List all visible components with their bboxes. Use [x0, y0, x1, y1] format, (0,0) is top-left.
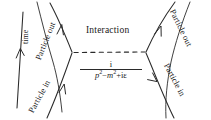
- interaction-label: Interaction: [86, 26, 129, 36]
- time-axis-line: [17, 12, 23, 108]
- dashed-propagator-line: [74, 52, 145, 53]
- feynman-diagram-canvas: time Particle out Particle in Particle o…: [0, 0, 211, 120]
- time-axis-label: time: [22, 30, 30, 44]
- denominator-tail: +iε: [116, 70, 127, 80]
- propagator-numerator: i: [78, 60, 144, 69]
- propagator-formula: i p2−m2+iε: [78, 60, 144, 81]
- propagator-denominator: p2−m2+iε: [78, 71, 144, 81]
- outgoing-left-arrow-icon: [57, 25, 63, 35]
